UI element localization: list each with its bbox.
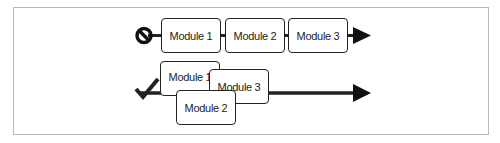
module-label: Module 2: [234, 30, 277, 42]
module-label: Module 3: [297, 30, 340, 42]
module-label: Module 1: [169, 71, 212, 83]
row1-module-1: Module 1: [161, 18, 221, 53]
row1-module-2: Module 2: [225, 18, 285, 53]
row1-arrowhead-icon: [353, 27, 371, 44]
row2-arrowhead-icon: [353, 84, 371, 102]
module-sequence-diagram: Module 1 Module 2 Module 3 Module 1 Modu…: [0, 0, 500, 143]
row1-module-3: Module 3: [288, 18, 348, 53]
row2-module-2: Module 2: [176, 90, 236, 125]
module-label: Module 1: [170, 30, 213, 42]
module-label: Module 2: [185, 102, 228, 114]
